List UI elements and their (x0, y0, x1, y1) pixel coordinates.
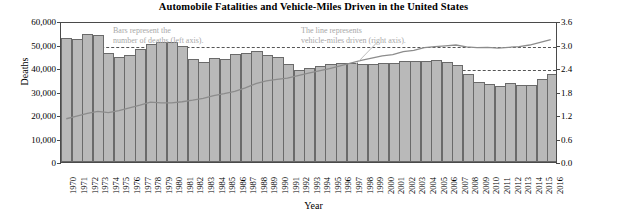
x-axis-tick-label: 2004 (428, 177, 438, 194)
x-axis-tick-label: 1981 (185, 177, 195, 194)
right-axis-ticks: 0.00.61.21.82.43.03.6 (561, 22, 587, 163)
left-axis-tick-label: 10,000 (31, 135, 56, 145)
x-axis-label: Year (0, 200, 627, 211)
x-axis-tick-label: 1994 (322, 177, 332, 194)
annotation-layer: Bars represent the number of deaths (lef… (61, 23, 556, 162)
x-axis-tick-label: 1988 (259, 177, 269, 194)
right-axis-tickmark (556, 116, 560, 117)
x-axis-tick-label: 1989 (269, 177, 279, 194)
x-axis-tick-label: 1975 (121, 177, 131, 194)
x-axis-tick-label: 1990 (280, 177, 290, 194)
x-axis-tick-label: 2005 (439, 177, 449, 194)
x-axis-tick-label: 1972 (90, 177, 100, 194)
x-axis-tick-label: 1993 (312, 177, 322, 194)
left-axis-tick-label: 40,000 (31, 64, 56, 74)
right-axis-tick-label: 3.0 (561, 41, 572, 51)
left-axis-tick-label: 0 (52, 158, 57, 168)
right-axis-tickmark (556, 46, 560, 47)
left-axis-tick-label: 30,000 (31, 88, 56, 98)
right-axis-tick-label: 1.8 (561, 88, 572, 98)
left-axis-tick-label: 60,000 (31, 17, 56, 27)
x-axis-tick-label: 2008 (470, 177, 480, 194)
x-axis-tick-label: 2006 (449, 177, 459, 194)
right-axis-tickmark (556, 140, 560, 141)
x-axis-tick-label: 2010 (491, 177, 501, 194)
chart-figure: Automobile Fatalities and Vehicle-Miles … (0, 0, 627, 219)
left-axis-tick-label: 50,000 (31, 41, 56, 51)
x-axis-tick-label: 2016 (555, 177, 565, 194)
right-axis-tick-label: 3.6 (561, 17, 572, 27)
x-axis-tick-label: 2000 (386, 177, 396, 194)
x-axis-tick-label: 1987 (248, 177, 258, 194)
right-axis-tickmark (556, 69, 560, 70)
right-axis-tickmark (556, 93, 560, 94)
x-axis-tick-label: 2002 (407, 177, 417, 194)
plot-area: Bars represent the number of deaths (lef… (60, 22, 557, 163)
x-axis-tick-label: 1978 (153, 177, 163, 194)
x-axis-tick-label: 1998 (365, 177, 375, 194)
x-axis-tick-label: 2001 (396, 177, 406, 194)
x-axis-tick-label: 1996 (343, 177, 353, 194)
x-axis-tick-label: 1977 (143, 177, 153, 194)
x-axis-tick-label: 1971 (79, 177, 89, 194)
x-axis-tick-label: 1973 (100, 177, 110, 194)
left-axis-label: Deaths (19, 42, 30, 102)
x-axis-tick-label: 2007 (460, 177, 470, 194)
x-axis-tick-label: 2009 (481, 177, 491, 194)
x-axis-ticks: 1970197119721973197419751976197719781979… (60, 164, 557, 204)
x-axis-tick-label: 1995 (333, 177, 343, 194)
x-axis-tick-label: 1991 (291, 177, 301, 194)
x-axis-tick-label: 2015 (544, 177, 554, 194)
right-axis-tick-label: 2.4 (561, 64, 572, 74)
x-axis-tick-label: 1982 (195, 177, 205, 194)
x-axis-tick-label: 1980 (174, 177, 184, 194)
right-axis-tick-label: 0.0 (561, 158, 572, 168)
x-axis-tick-label: 1984 (217, 177, 227, 194)
x-axis-tick-label: 2013 (523, 177, 533, 194)
x-axis-tick-label: 1986 (238, 177, 248, 194)
left-axis-tick-label: 20,000 (31, 111, 56, 121)
x-axis-tick-label: 1974 (111, 177, 121, 194)
x-axis-tick-label: 1997 (354, 177, 364, 194)
right-axis-tickmark (556, 22, 560, 23)
x-axis-tick-label: 2011 (502, 177, 512, 194)
chart-title: Automobile Fatalities and Vehicle-Miles … (0, 1, 627, 12)
x-axis-tick-label: 1992 (301, 177, 311, 194)
annotation-bars-note: Bars represent the number of deaths (lef… (113, 26, 203, 46)
x-axis-tick-label: 2014 (534, 177, 544, 194)
x-axis-tick-label: 1970 (68, 177, 78, 194)
right-axis-tick-label: 1.2 (561, 111, 572, 121)
x-axis-tick-label: 1985 (227, 177, 237, 194)
x-axis-tick-label: 1976 (132, 177, 142, 194)
x-axis-tick-label: 1999 (375, 177, 385, 194)
x-axis-tick-label: 1979 (164, 177, 174, 194)
annotation-line-note: The line represents vehicle-miles driven… (301, 26, 406, 46)
x-axis-tick-label: 2003 (417, 177, 427, 194)
x-axis-tick-label: 1983 (206, 177, 216, 194)
right-axis-tick-label: 0.6 (561, 135, 572, 145)
x-axis-tick-label: 2012 (513, 177, 523, 194)
